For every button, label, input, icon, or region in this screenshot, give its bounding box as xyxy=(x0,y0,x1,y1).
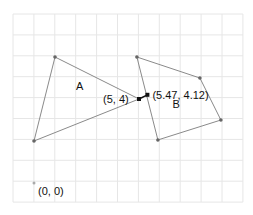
point-marker xyxy=(137,97,141,101)
vertex-dot xyxy=(156,138,160,142)
grid xyxy=(13,14,243,202)
shape-label-a: A xyxy=(76,80,84,92)
point-label: (5.47, 4.12) xyxy=(152,89,208,101)
point-p2: (5.47, 4.12) xyxy=(145,89,208,101)
vertex-dot xyxy=(135,55,139,59)
point-p1: (5, 4) xyxy=(103,93,141,105)
vertex-dot xyxy=(219,118,223,122)
point-origin: (0, 0) xyxy=(33,182,64,198)
vertex-dot xyxy=(32,139,36,143)
origin-dot xyxy=(33,182,36,185)
point-label: (5, 4) xyxy=(103,93,129,105)
coordinate-diagram: AB (5, 4)(5.47, 4.12)(0, 0) xyxy=(0,0,253,215)
vertex-dot xyxy=(53,55,57,59)
vertex-dot xyxy=(198,76,202,80)
point-label: (0, 0) xyxy=(38,185,64,197)
point-marker xyxy=(145,93,149,97)
